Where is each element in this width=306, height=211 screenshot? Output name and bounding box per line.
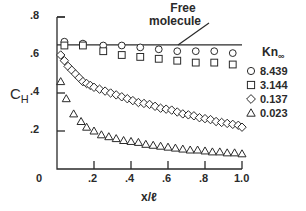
y-axis-label: CH [10, 85, 29, 102]
x-tick-label: .4 [125, 172, 134, 184]
circle-icon [246, 66, 256, 76]
legend-label: 0.137 [260, 93, 288, 105]
legend-label: 8.439 [260, 65, 288, 77]
y-axis-label-main: C [10, 85, 21, 102]
data-points [57, 38, 247, 157]
series-triangle [57, 78, 246, 157]
y-tick-label: .2 [30, 123, 39, 135]
legend-title: Kn∞ [262, 45, 284, 59]
x-tick-label: .8 [199, 172, 208, 184]
legend-title-main: Kn [262, 45, 278, 59]
x-tick-label: .6 [162, 172, 171, 184]
legend-item-square: 3.144 [246, 78, 288, 91]
y-tick-label: .4 [30, 85, 39, 97]
y-tick-label: .6 [30, 47, 39, 59]
diamond-icon [246, 94, 256, 104]
legend-item-circle: 8.439 [246, 64, 288, 77]
series-circle [61, 38, 236, 56]
y-tick-label: 0 [36, 172, 42, 184]
legend-item-triangle: 0.023 [246, 107, 288, 120]
legend-item-diamond: 0.137 [246, 93, 288, 106]
annotation-line2: molecule [149, 15, 201, 28]
legend-label: 0.023 [260, 107, 288, 119]
legend-title-sub: ∞ [278, 51, 284, 61]
free-molecule-annotation: Free molecule [165, 2, 201, 28]
square-icon [246, 80, 256, 90]
triangle-icon [246, 108, 256, 118]
legend-label: 3.144 [260, 79, 288, 91]
y-axis-label-sub: H [21, 93, 29, 105]
series-square [61, 42, 236, 68]
x-tick-label: .2 [88, 172, 97, 184]
y-tick-label: .8 [30, 9, 39, 21]
x-tick-label: 1.0 [234, 172, 249, 184]
x-axis-label: x/ℓ [141, 190, 157, 204]
